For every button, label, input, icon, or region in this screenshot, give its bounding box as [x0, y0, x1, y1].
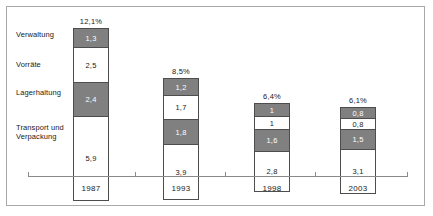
segment-1987-lagerhaltung: 2,4 — [73, 82, 109, 117]
series-label-vorraete: Vorräte — [16, 60, 78, 69]
x-axis-tick-3 — [315, 172, 316, 176]
segment-1998-verwaltung: 1 — [254, 103, 290, 117]
x-axis-tick-end — [407, 172, 408, 176]
total-label-1993: 8,5% — [158, 67, 204, 76]
bar-1993: 1,2 1,7 1,8 3,9 — [163, 78, 199, 200]
segment-2003-lagerhaltung: 1,5 — [340, 129, 376, 150]
total-label-1998: 6,4% — [249, 92, 295, 101]
total-label-1987: 12,1% — [68, 17, 114, 26]
x-axis-line — [28, 176, 408, 177]
total-label-2003: 6,1% — [335, 96, 381, 105]
x-axis-tick-start — [28, 172, 29, 176]
segment-1987-vorraete: 2,5 — [73, 47, 109, 83]
segment-1993-lagerhaltung: 1,8 — [163, 119, 199, 145]
x-axis-label-1987: 1987 — [66, 184, 116, 193]
series-label-verwaltung: Verwaltung — [16, 30, 78, 39]
bar-1998: 1 1 1,6 2,8 — [254, 103, 290, 192]
segment-1993-vorraete: 1,7 — [163, 95, 199, 120]
x-axis-label-1998: 1998 — [247, 184, 297, 193]
chart-page: Verwaltung Vorräte Lagerhaltung Transpor… — [0, 0, 433, 216]
segment-1998-vorraete: 1 — [254, 116, 290, 130]
stacked-bar-chart: Verwaltung Vorräte Lagerhaltung Transpor… — [0, 0, 433, 216]
x-axis-tick-2 — [225, 172, 226, 176]
segment-1998-lagerhaltung: 1,6 — [254, 129, 290, 152]
x-axis-tick-1 — [135, 172, 136, 176]
segment-1993-verwaltung: 1,2 — [163, 78, 199, 96]
bar-2003: 0,8 0,8 1,5 3,1 — [340, 107, 376, 194]
x-axis-label-2003: 2003 — [333, 184, 383, 193]
x-axis-label-1993: 1993 — [156, 184, 206, 193]
segment-1987-verwaltung: 1,3 — [73, 28, 109, 48]
